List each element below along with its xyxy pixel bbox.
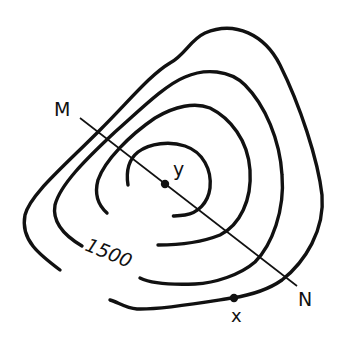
contour-line-4	[127, 143, 210, 216]
point-x	[230, 294, 238, 302]
label-m: M	[54, 98, 70, 120]
label-y: y	[173, 158, 184, 180]
contour-map-svg: M N y x 1500	[0, 0, 347, 338]
label-x: x	[231, 305, 242, 326]
summit-point-y	[161, 180, 169, 188]
contour-elevation-label: 1500	[83, 233, 136, 272]
label-n: N	[298, 288, 312, 310]
contour-map: M N y x 1500	[0, 0, 347, 338]
